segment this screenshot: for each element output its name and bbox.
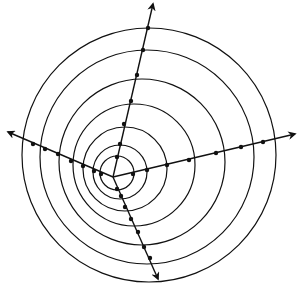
dot (43, 147, 47, 151)
dot (119, 194, 123, 198)
dot (187, 158, 191, 162)
dot (214, 151, 218, 155)
dot (31, 142, 35, 146)
dot (135, 73, 139, 77)
ray-left (8, 132, 113, 177)
dot (141, 48, 145, 52)
dot (131, 172, 135, 176)
dot (261, 140, 265, 144)
spiral-diagram (0, 0, 298, 290)
dot (239, 145, 243, 149)
dot (118, 142, 122, 146)
dot (146, 26, 150, 30)
circle-4 (73, 104, 195, 226)
dot (122, 122, 126, 126)
dot (129, 99, 133, 103)
ray-right (113, 134, 295, 177)
dot (142, 245, 146, 249)
dot (136, 230, 140, 234)
dot (129, 217, 133, 221)
dot (56, 152, 60, 156)
dot (123, 205, 127, 209)
dot (145, 168, 149, 172)
dot (69, 159, 73, 163)
rays (8, 4, 295, 279)
dot (115, 187, 119, 191)
dot (165, 163, 169, 167)
circle-6 (40, 50, 254, 264)
dot (148, 256, 152, 260)
dot (92, 169, 96, 173)
dot (99, 172, 103, 176)
dot (81, 164, 85, 168)
dot (115, 155, 119, 159)
